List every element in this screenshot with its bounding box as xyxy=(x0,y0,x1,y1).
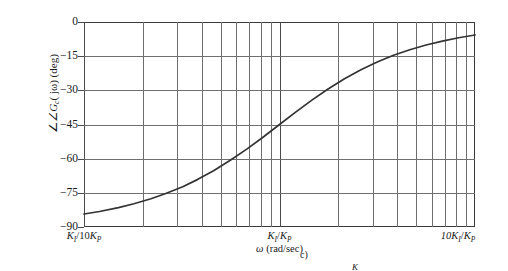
y-tick-75: −75 xyxy=(60,187,78,199)
y-tick-mark--60 xyxy=(78,159,84,160)
y-tick-15: −15 xyxy=(60,50,78,62)
y-tick-30: −30 xyxy=(60,85,78,97)
y-tick-60: −60 xyxy=(60,153,78,165)
x-tick-middle: KI/KP xyxy=(267,230,291,244)
y-tick-mark-0 xyxy=(78,22,84,23)
figure-phase-bode-plot: ∠∠Gc( jω) (deg) 0 −15 −30 −45 −60 −75 −9… xyxy=(0,0,508,271)
y-tick-mark--30 xyxy=(78,90,84,91)
y-axis-ticks: 0 −15 −30 −45 −60 −75 −90 xyxy=(50,22,78,227)
figure-caption-symbol: K xyxy=(352,262,358,271)
x-axis-title: ω (rad/sec) xyxy=(84,243,475,254)
plot-area xyxy=(84,22,475,227)
x-axis-title-omega: ω xyxy=(256,243,263,254)
y-tick-mark--75 xyxy=(78,193,84,194)
x-tick-left: KI/10KP xyxy=(67,230,102,244)
x-axis-title-units: (rad/sec) xyxy=(264,243,303,254)
figure-caption-fragment: c) xyxy=(300,249,308,260)
y-tick-mark--90 xyxy=(78,227,84,228)
y-tick-45: −45 xyxy=(60,119,78,131)
y-tick-mark--15 xyxy=(78,56,84,57)
x-tick-right: 10KI/KP xyxy=(441,230,476,244)
y-tick-mark--45 xyxy=(78,125,84,126)
phase-curve-path xyxy=(84,35,475,214)
phase-curve xyxy=(84,22,475,227)
